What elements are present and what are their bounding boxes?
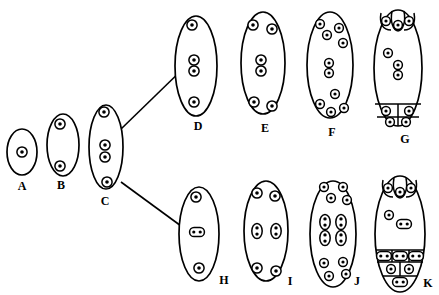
nucleus: [394, 21, 403, 30]
nucleus: [267, 101, 277, 111]
nucleus: [327, 108, 336, 117]
stage-label-j: J: [354, 274, 360, 288]
nucleus: [252, 263, 262, 273]
nucleus: [100, 152, 110, 162]
nucleus: [394, 61, 403, 70]
nucleus: [100, 140, 110, 150]
nucleus: [323, 31, 332, 40]
binucleate-cell: [271, 223, 281, 238]
binucleate-cell: [336, 214, 346, 229]
stage-c: [89, 105, 123, 189]
nucleus: [191, 192, 201, 202]
stage-h: [179, 187, 219, 281]
nucleus: [249, 97, 259, 107]
stage-label-d: D: [194, 119, 203, 133]
binucleate-cell: [252, 223, 262, 238]
stage-label-i: I: [288, 274, 293, 288]
nucleus: [394, 71, 403, 80]
nucleus: [405, 107, 414, 116]
nucleus: [194, 263, 204, 273]
nucleus: [189, 66, 199, 76]
binucleate-cell: [393, 251, 408, 260]
nucleus: [407, 184, 416, 193]
stage-label-c: C: [101, 194, 110, 208]
nucleus: [189, 55, 199, 65]
nucleus: [102, 177, 112, 187]
nucleus: [256, 66, 266, 76]
nucleus: [331, 90, 340, 99]
binucleate-cell: [320, 230, 330, 245]
binucleate-cell: [377, 251, 392, 260]
binucleate-cell: [336, 230, 346, 245]
stage-a: [7, 129, 37, 175]
stage-label-k: K: [423, 276, 433, 290]
stage-d: [175, 16, 217, 116]
nucleus: [252, 188, 262, 198]
stage-label-e: E: [261, 121, 269, 135]
nucleus: [384, 184, 393, 193]
nucleus: [17, 147, 27, 157]
nucleus: [342, 270, 351, 279]
nucleus: [396, 188, 405, 197]
nucleus: [385, 211, 394, 220]
nucleus: [316, 100, 325, 109]
nucleus: [339, 183, 348, 192]
nucleus: [405, 17, 414, 26]
nucleus: [55, 119, 65, 129]
nucleus: [339, 258, 348, 267]
nucleus: [189, 97, 199, 107]
stage-label-g: G: [400, 132, 409, 146]
nucleus: [387, 265, 396, 274]
nucleus: [55, 161, 65, 171]
nucleus: [405, 265, 414, 274]
nucleus: [320, 183, 329, 192]
stage-b: [47, 114, 79, 176]
binucleate-cell: [393, 277, 408, 286]
stage-label-b: B: [57, 178, 65, 192]
nucleus: [271, 266, 281, 276]
stage-j: [310, 181, 356, 287]
figure-canvas: A B C D E F G H I J K: [0, 0, 439, 295]
nucleus: [325, 59, 334, 68]
nucleus: [187, 20, 197, 30]
nucleus: [386, 118, 395, 127]
nucleus: [267, 24, 277, 34]
nucleus: [325, 272, 334, 281]
binucleate-cell: [320, 214, 330, 229]
nucleus: [327, 194, 336, 203]
nucleus: [382, 107, 391, 116]
nucleus: [384, 49, 393, 58]
nucleus: [402, 118, 411, 127]
binucleate-cell: [409, 251, 424, 260]
stage-k: [375, 176, 425, 292]
nucleus: [270, 191, 280, 201]
nucleus: [325, 69, 334, 78]
stage-g: [374, 10, 422, 126]
nucleus: [335, 24, 344, 33]
nucleus: [256, 55, 266, 65]
stage-f: [307, 12, 353, 118]
stage-label-a: A: [18, 179, 27, 193]
stage-i: [244, 181, 288, 281]
nucleus: [248, 20, 258, 30]
nucleus: [340, 104, 349, 113]
binucleate-cell: [397, 219, 412, 228]
binucleate-cell: [190, 227, 205, 236]
stage-e: [241, 12, 285, 114]
stage-label-f: F: [328, 125, 335, 139]
nucleus: [316, 20, 325, 29]
nucleus: [320, 259, 329, 268]
development-diagram: A B C D E F G H I J K: [0, 0, 439, 295]
nucleus: [382, 17, 391, 26]
nucleus: [99, 107, 109, 117]
stage-label-h: H: [219, 273, 229, 287]
nucleus: [339, 39, 348, 48]
nucleus: [343, 196, 352, 205]
